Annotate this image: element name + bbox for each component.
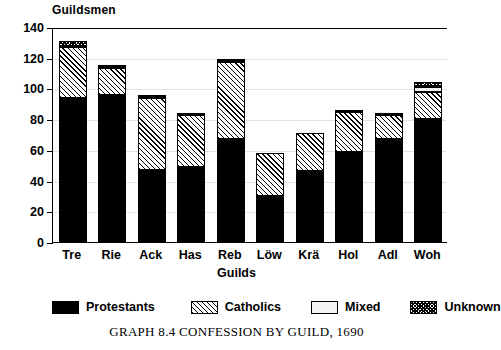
x-axis-tick-label: Hol [338,248,358,262]
bar-segment-protestants [59,98,87,242]
y-axis-tick-label: 60 [30,144,44,158]
y-axis-tick-label: 20 [30,205,44,219]
x-axis-tick-label: Ack [139,248,162,262]
bar-segment-protestants [98,95,126,242]
bar-segment-protestants [256,196,284,242]
chart-legend: ProtestantsCatholicsMixedUnknown [52,300,452,314]
legend-item-unknown: Unknown [410,300,500,314]
x-axis-tick-label: Woh [414,248,441,262]
bar-reb [217,59,245,242]
y-axis-tick-label: 40 [30,175,44,189]
legend-swatch-protestants [52,301,79,314]
bar-ack [138,95,166,242]
bar-segment-protestants [217,139,245,242]
bar-segment-catholics [98,68,126,94]
bar-segment-catholics [256,153,284,196]
bar-rie [98,65,126,242]
bar-segment-catholics [138,98,166,170]
x-axis-tick-label: Rie [102,248,121,262]
legend-item-mixed: Mixed [311,300,380,314]
y-axis-tick [47,243,53,244]
bar-segment-catholics [217,62,245,139]
legend-swatch-catholics [191,301,218,314]
bar-segment-catholics [335,112,363,152]
y-axis-tick-label: 0 [37,236,44,250]
legend-label: Protestants [86,300,155,314]
bar-adl [375,113,403,242]
bar-segment-catholics [375,115,403,139]
x-axis-tick-label: Adl [378,248,398,262]
bar-segment-protestants [375,139,403,242]
y-axis-tick-label: 140 [23,21,44,35]
y-axis-tick-label: 120 [23,52,44,66]
bar-segment-catholics [177,115,205,167]
y-axis-title: Guildsmen [52,3,116,17]
bar-has [177,113,205,242]
bar-löw [256,153,284,242]
x-axis-tick-label: Löw [257,248,282,262]
bar-krä [296,133,324,242]
x-axis-tick-label: Krä [298,248,319,262]
bar-segment-protestants [414,119,442,242]
legend-label: Mixed [345,300,380,314]
y-axis-tick-label: 100 [23,82,44,96]
x-axis-title: Guilds [0,266,473,280]
y-axis-tick-label: 80 [30,113,44,127]
bar-woh [414,82,442,242]
bar-segment-catholics [296,133,324,171]
bar-segment-protestants [335,152,363,242]
legend-item-protestants: Protestants [52,300,155,314]
legend-label: Unknown [444,300,500,314]
bar-series-group [53,28,447,242]
bar-segment-catholics [59,47,87,98]
bar-segment-protestants [296,171,324,242]
legend-swatch-mixed [311,301,338,314]
bar-segment-protestants [177,167,205,242]
x-axis-tick-label: Reb [218,248,242,262]
bar-segment-protestants [138,170,166,242]
x-axis-tick-label: Tre [62,248,81,262]
legend-item-catholics: Catholics [191,300,281,314]
x-axis-tick-label: Has [179,248,202,262]
bar-hol [335,110,363,242]
bar-segment-catholics [414,92,442,120]
legend-label: Catholics [225,300,281,314]
bar-tre [59,41,87,242]
plot-area: 020406080100120140 [52,28,447,243]
figure-caption: GRAPH 8.4 CONFESSION BY GUILD, 1690 [0,324,473,340]
legend-swatch-unknown [410,301,437,314]
